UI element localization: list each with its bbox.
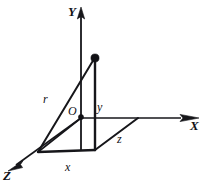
component-r-label: r (43, 93, 48, 105)
position-point-dot (91, 54, 99, 62)
diagram-canvas (0, 0, 208, 186)
component-z-label: z (117, 133, 122, 145)
y-axis-label: Y (68, 5, 76, 18)
component-x-label: x (65, 161, 70, 173)
coordinate-system-diagram: Y X Z O r y x z (0, 0, 208, 186)
base-edge-back (38, 118, 81, 152)
component-y-label: y (97, 101, 102, 113)
origin-dot (78, 114, 83, 119)
z-axis-label: Z (3, 169, 11, 182)
x-axis-label: X (190, 119, 199, 132)
base-edge-front (38, 150, 95, 152)
origin-label: O (68, 105, 77, 117)
